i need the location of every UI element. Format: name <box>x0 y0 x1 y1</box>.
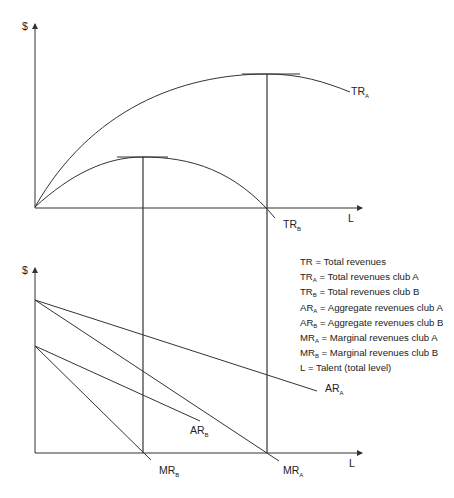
bottom-y-axis-label: $ <box>22 264 28 276</box>
legend-item-tr-b: TRB = Total revenues club B <box>300 286 443 301</box>
legend-item-mr-a: MRA = Marginal revenues club A <box>300 332 443 347</box>
legend-item-ar-b: ARB = Aggregate revenues club B <box>300 317 443 332</box>
legend-item-tr: TR = Total revenues <box>300 256 443 271</box>
top-x-axis-label: L <box>348 212 354 224</box>
top-panel: $ L TRA TRB <box>22 20 369 232</box>
bottom-x-axis-label: L <box>349 457 355 469</box>
chart-canvas: $ L TRA TRB $ L ARA ARB MRB MRA <box>0 0 454 498</box>
ar-a-line <box>35 300 317 391</box>
mr-b-line <box>35 346 151 460</box>
tr-b-curve <box>35 157 275 218</box>
legend-item-ar-a: ARA = Aggregate revenues club A <box>300 302 443 317</box>
ar-a-label: ARA <box>325 382 344 396</box>
tr-a-label: TRA <box>351 85 369 99</box>
mr-a-label: MRA <box>283 464 303 478</box>
legend-item-mr-b: MRB = Marginal revenues club B <box>300 347 443 362</box>
tr-a-curve <box>35 74 350 207</box>
legend-item-l: L = Talent (total level) <box>300 362 443 377</box>
ar-b-line <box>35 346 200 421</box>
legend: TR = Total revenues TRA = Total revenues… <box>300 256 443 378</box>
tr-b-label: TRB <box>283 218 301 232</box>
legend-item-tr-a: TRA = Total revenues club A <box>300 271 443 286</box>
mr-a-line <box>35 300 279 461</box>
ar-b-label: ARB <box>190 424 209 438</box>
top-y-axis-label: $ <box>22 20 28 32</box>
mr-b-label: MRB <box>159 464 179 478</box>
